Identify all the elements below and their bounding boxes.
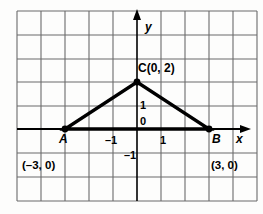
y-tick-label-negative-1: –1	[124, 150, 136, 161]
coordinate-figure: y x C(0, 2) A B (–3, 0) (3, 0) 1 0 –1 –1…	[0, 0, 263, 214]
vertex-a-label: A	[59, 133, 68, 145]
origin-tick-label-0: 0	[140, 116, 146, 127]
x-tick-label-negative-1: –1	[105, 135, 117, 146]
x-tick-label-1: 1	[160, 135, 166, 146]
vertex-c-label: C(0, 2)	[138, 62, 175, 74]
coordinate-label-a: (–3, 0)	[22, 160, 55, 172]
vertex-b-label: B	[212, 133, 221, 145]
y-tick-label-1: 1	[140, 100, 146, 111]
y-axis-label: y	[145, 21, 152, 33]
coordinate-plot-svg	[0, 0, 263, 214]
x-axis-label: x	[236, 133, 243, 145]
vertex-point-c	[134, 79, 141, 86]
coordinate-label-b: (3, 0)	[211, 160, 238, 172]
